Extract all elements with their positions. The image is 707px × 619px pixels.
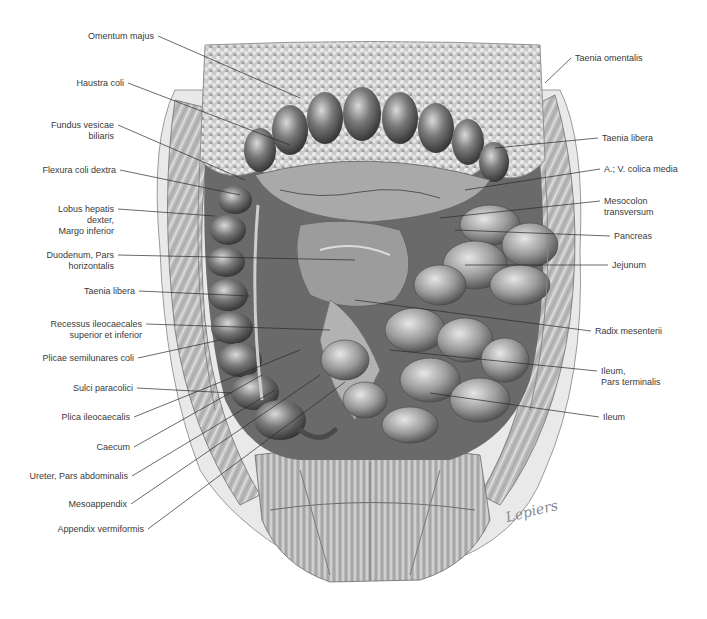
- label-a-v-colica-media: A.; V. colica media: [604, 164, 678, 175]
- label-ureter-pars-abdominalis: Ureter, Pars abdominalis: [29, 471, 128, 482]
- label-flexura-coli-dextra: Flexura coli dextra: [42, 165, 116, 176]
- label-mesoappendix: Mesoappendix: [68, 499, 127, 510]
- label-omentum-majus: Omentum majus: [88, 31, 154, 42]
- label-pancreas: Pancreas: [614, 231, 652, 242]
- label-mesocolon-transversum: Mesocolon transversum: [604, 196, 654, 218]
- anatomical-figure: Omentum majusHaustra coliFundus vesicae …: [0, 0, 707, 619]
- label-plicae-semilunares-coli: Plicae semilunares coli: [42, 353, 134, 364]
- label-recessus-ileocaecales: Recessus ileocaecales superior et inferi…: [50, 319, 142, 341]
- label-fundus-vesicae-biliaris: Fundus vesicae biliaris: [51, 120, 114, 142]
- label-ileum: Ileum: [603, 412, 625, 423]
- label-taenia-omentalis: Taenia omentalis: [575, 53, 643, 64]
- label-duodenum-pars-horizontalis: Duodenum, Pars horizontalis: [46, 250, 114, 272]
- label-haustra-coli: Haustra coli: [76, 78, 124, 89]
- label-radix-mesenterii: Radix mesenterii: [595, 326, 662, 337]
- label-jejunum: Jejunum: [612, 260, 646, 271]
- label-lobus-hepatis: Lobus hepatis dexter, Margo inferior: [58, 204, 114, 237]
- label-plica-ileocaecalis: Plica ileocaecalis: [61, 412, 130, 423]
- label-taenia-libera-left: Taenia libera: [84, 286, 135, 297]
- label-appendix-vermiformis: Appendix vermiformis: [57, 524, 144, 535]
- label-caecum: Caecum: [96, 442, 130, 453]
- label-ileum-pars-terminalis: Ileum, Pars terminalis: [601, 366, 661, 388]
- label-taenia-libera-right: Taenia libera: [602, 133, 653, 144]
- label-sulci-paracolici: Sulci paracolici: [73, 383, 133, 394]
